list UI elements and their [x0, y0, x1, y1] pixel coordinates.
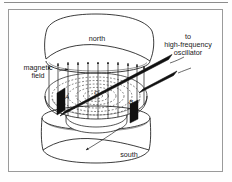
label-point-o: O — [94, 90, 99, 97]
label-south: south — [111, 151, 147, 159]
label-point-a: A — [65, 94, 69, 101]
label-point-b: B — [129, 99, 133, 106]
page-top-rule — [4, 2, 228, 3]
label-oscillator-line3: oscillator — [148, 49, 228, 57]
label-magnetic-field: magnetic field — [16, 64, 60, 80]
label-north: north — [79, 35, 115, 43]
label-oscillator: to high-frequency oscillator — [148, 33, 228, 57]
label-magnetic-field-line2: field — [16, 72, 60, 80]
figure-page: north south magnetic field to high-frequ… — [0, 0, 232, 182]
